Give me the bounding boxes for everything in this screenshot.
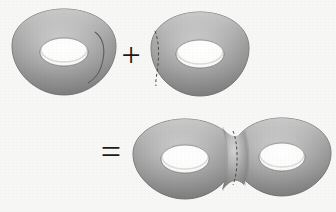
plus-operator: + [119,38,143,74]
equals-operator: = [95,134,127,174]
genus-two-surface [133,118,331,199]
connected-sum-figure [0,0,336,212]
torus-left-summand [12,9,116,95]
torus-right-summand [151,12,249,96]
genus-two-left-lobe [133,119,236,199]
